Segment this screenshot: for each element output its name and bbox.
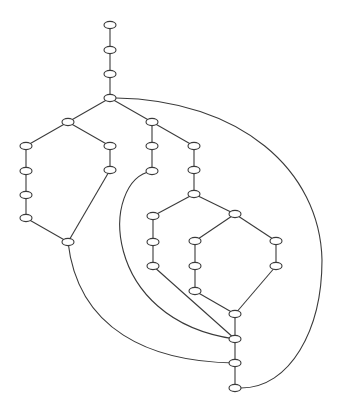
graph-node-n2 (104, 46, 116, 53)
node-layer (20, 21, 282, 391)
edge-n22-n23 (195, 214, 235, 241)
edge-layer (26, 25, 322, 388)
edge-n6-n16 (152, 122, 194, 146)
graph-node-n31 (229, 384, 241, 391)
graph-node-n19 (147, 212, 159, 219)
graph-node-n23 (189, 237, 201, 244)
graph-node-n14 (146, 142, 158, 149)
graph-node-n12 (104, 166, 116, 173)
graph-node-n27 (270, 262, 282, 269)
graph-node-n22 (229, 210, 241, 217)
edge-n22-n26 (235, 214, 276, 241)
edge-n4-n5 (68, 98, 110, 122)
graph-node-n26 (270, 237, 282, 244)
edge-n4-n6 (110, 98, 152, 122)
graph-node-n29 (229, 335, 241, 342)
graph-node-n25 (189, 287, 201, 294)
edge-n27-n28 (235, 266, 276, 314)
edge-n18-n22 (194, 194, 235, 214)
graph-node-n10 (20, 214, 32, 221)
graph-node-n21 (147, 262, 159, 269)
graph-node-n24 (189, 262, 201, 269)
graph-node-n20 (147, 238, 159, 245)
graph-node-n7 (20, 142, 32, 149)
edge-n5-n11 (68, 122, 110, 146)
graph-node-n6 (146, 118, 158, 125)
graph-node-n16 (188, 142, 200, 149)
graph-node-n18 (188, 190, 200, 197)
edge-n5-n7 (26, 122, 68, 146)
graph-node-n5 (62, 118, 74, 125)
graph-node-n28 (229, 310, 241, 317)
graph-node-n9 (20, 191, 32, 198)
edge-n12-n13 (68, 170, 110, 242)
graph-node-n4 (104, 94, 116, 101)
graph-node-n13 (62, 238, 74, 245)
edge-n25-n28 (195, 291, 235, 314)
graph-node-n3 (104, 70, 116, 77)
graph-canvas (0, 0, 339, 408)
edge-n15-n29 (120, 171, 235, 339)
edge-n10-n13 (26, 218, 68, 242)
graph-node-n15 (146, 167, 158, 174)
graph-node-n8 (20, 167, 32, 174)
edge-n13-n30 (68, 242, 235, 363)
graph-node-n1 (104, 21, 116, 28)
graph-node-n11 (104, 142, 116, 149)
graph-node-n17 (188, 166, 200, 173)
graph-node-n30 (229, 359, 241, 366)
edge-n18-n19 (153, 194, 194, 216)
